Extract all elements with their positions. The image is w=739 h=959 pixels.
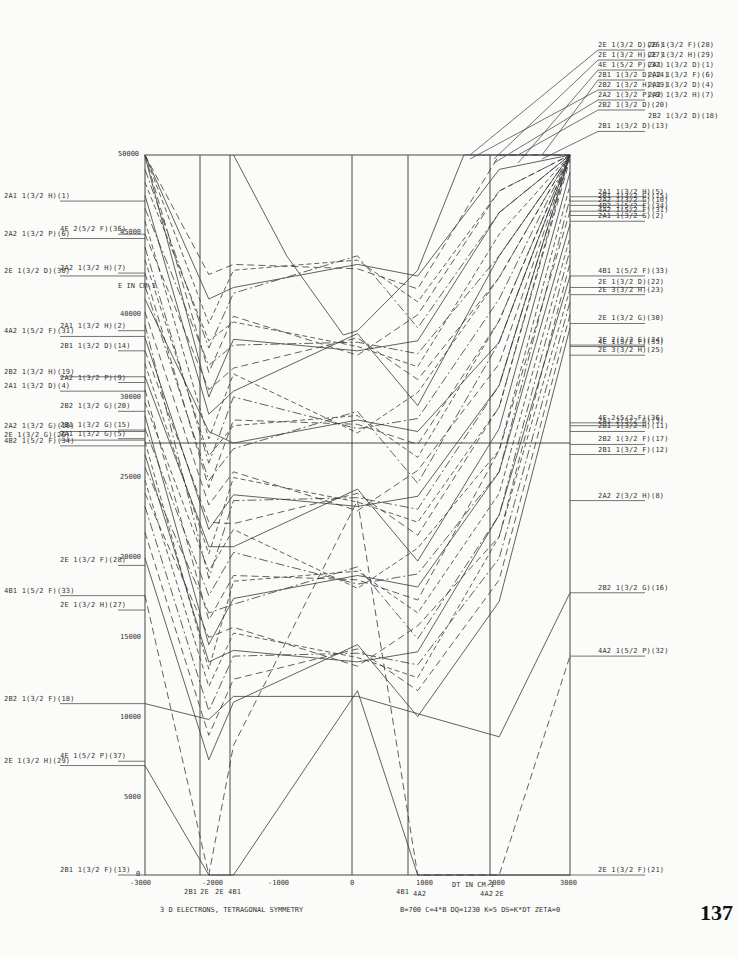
right-state-label: 2A2 2(3/2 H)(8) <box>598 492 664 500</box>
right-state-label: 2E 3(3/2 H)(25) <box>598 346 664 354</box>
right-state-label: 2E 1(3/2 G)(30) <box>598 314 664 322</box>
right-state-label: 2B1 1(3/2 D)(13) <box>598 122 669 130</box>
right-state-label: 4E 1(5/2 F)(35) <box>598 338 664 346</box>
x-tick: -2000 <box>202 879 223 887</box>
right-state-label: 2E 1(3/2 F)(28) <box>648 41 714 49</box>
plot-frame <box>145 155 570 875</box>
y-unit-label: E IN CM-1 <box>118 282 156 290</box>
right-state-label: 4B1 1(5/2 F)(33) <box>598 267 669 275</box>
left-state-label: 2A1 1(3/2 D)(4) <box>4 382 70 390</box>
right-state-label: 2A2 1(3/2 F)(6) <box>648 71 714 79</box>
energy-curve <box>145 155 570 390</box>
energy-curve <box>145 155 570 554</box>
right-state-label: 2A1 1(3/2 D)(1) <box>648 61 714 69</box>
x-tick: -1000 <box>268 879 289 887</box>
left-state-label: 2E 1(3/2 H)(29) <box>4 757 70 765</box>
state-label: 2E <box>495 890 504 898</box>
energy-curve <box>145 155 570 397</box>
state-label: 2E <box>215 888 224 896</box>
left-state-label: 2B2 1(3/2 G)(20) <box>60 402 131 410</box>
left-state-label: 2B2 1(3/2 F)(18) <box>4 695 75 703</box>
right-state-label: 2B1 1(3/2 H)(11) <box>598 422 669 430</box>
state-label: 4B1 <box>228 888 241 896</box>
energy-curve <box>145 315 570 736</box>
energy-curve <box>145 155 570 348</box>
y-tick: 0 <box>136 870 140 878</box>
right-state-label: 4A2 1(5/2 P)(32) <box>598 647 669 655</box>
left-state-label: 2B1 1(3/2 G)(15) <box>60 421 131 429</box>
left-state-label: 2A2 1(3/2 P)(6) <box>4 230 70 238</box>
y-tick: 10000 <box>120 713 141 721</box>
y-tick: 40000 <box>120 310 141 318</box>
right-state-label: 2A1 1(3/2 D)(4) <box>648 81 714 89</box>
left-state-label: 2B1 1(3/2 F)(13) <box>60 866 131 874</box>
y-tick: 25000 <box>120 473 141 481</box>
right-state-label: 2B1 1(3/2 F)(12) <box>598 446 669 454</box>
state-label: 2E <box>200 888 209 896</box>
energy-curves <box>145 155 570 875</box>
chart-title: 3 D ELECTRONS, TETRAGONAL SYMMETRY <box>160 906 303 914</box>
energy-curve <box>234 155 571 335</box>
energy-curve <box>145 224 570 644</box>
energy-curve <box>145 155 570 367</box>
energy-curve <box>145 237 570 669</box>
y-tick: 5000 <box>124 793 141 801</box>
energy-curve <box>145 155 570 299</box>
energy-curve <box>145 250 570 639</box>
energy-curve <box>145 155 570 463</box>
x-tick: 0 <box>350 879 354 887</box>
state-label: 4B1 <box>396 888 409 896</box>
energy-curve <box>145 155 570 511</box>
state-label: 2B1 <box>184 888 197 896</box>
right-state-label: 2A1 1(3/2 G)(2) <box>598 212 664 220</box>
left-state-label: 2E 1(3/2 D)(30) <box>4 267 70 275</box>
right-state-label: 2B2 1(3/2 D)(20) <box>598 101 669 109</box>
left-state-label: 4B1 1(5/2 F)(33) <box>4 587 75 595</box>
right-state-label: 2E 1(3/2 H)(29) <box>648 51 714 59</box>
left-state-label: 2B1 1(3/2 D)(14) <box>60 342 131 350</box>
x-tick: -3000 <box>130 879 151 887</box>
left-state-label: 2A1 1(3/2 H)(1) <box>4 192 70 200</box>
energy-curve <box>145 593 570 737</box>
left-state-label: 4B2 1(5/2 F)(34) <box>4 437 75 445</box>
left-state-label: 2E 1(3/2 F)(28) <box>60 556 126 564</box>
x-tick: 1000 <box>416 879 433 887</box>
left-state-label: 4A2 1(5/2 F)(31) <box>4 327 75 335</box>
x-tick: 3000 <box>560 879 577 887</box>
state-label: 4A2 <box>480 890 493 898</box>
energy-level-diagram <box>0 0 739 959</box>
energy-curve <box>145 501 570 875</box>
energy-curve <box>145 155 570 457</box>
y-tick: 15000 <box>120 633 141 641</box>
chart-parameters: B=700 C=4*B DQ=1230 K=5 DS=K*DT ZETA=0 <box>400 906 560 914</box>
x-tick: 2000 <box>488 879 505 887</box>
energy-curve <box>145 155 570 578</box>
y-tick: 30000 <box>120 393 141 401</box>
left-state-label: 2A2 1(3/2 P)(9) <box>60 374 126 382</box>
right-state-label: 2B2 1(3/2 D)(18) <box>648 112 719 120</box>
energy-curve <box>145 155 570 414</box>
right-state-label: 2B2 1(3/2 G)(16) <box>598 584 669 592</box>
state-label: 4A2 <box>413 890 426 898</box>
energy-curve <box>145 155 570 289</box>
right-state-label: 2B2 1(3/2 F)(17) <box>598 435 669 443</box>
right-state-label: 2E 3(3/2 H)(23) <box>598 286 664 294</box>
right-state-label: 2A2 1(3/2 H)(7) <box>648 91 714 99</box>
y-tick: 50000 <box>118 150 139 158</box>
left-state-label: 2E 1(3/2 H)(27) <box>60 601 126 609</box>
right-state-label: 2E 1(3/2 F)(21) <box>598 866 664 874</box>
energy-curve <box>145 691 570 875</box>
page-number: 137 <box>700 900 733 926</box>
energy-curve <box>145 328 570 760</box>
energy-curve <box>145 155 570 483</box>
